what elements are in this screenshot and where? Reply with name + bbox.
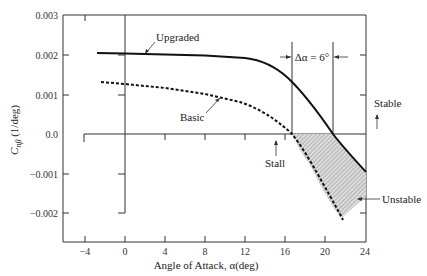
annotation-upgraded: Upgraded	[145, 31, 200, 54]
x-tick-label: 0	[123, 246, 128, 257]
y-tick-label: −0.002	[30, 208, 58, 219]
y-tick-label: −0.001	[30, 169, 58, 180]
x-tick-labels: −4 0 4 8 12 16 20 24	[80, 246, 370, 257]
annotation-unstable: Unstable	[357, 193, 421, 205]
y-tick-label: 0.003	[36, 10, 59, 21]
svg-text:Stall: Stall	[265, 157, 285, 169]
svg-text:Cnβ (1/deg): Cnβ (1/deg)	[8, 105, 23, 155]
svg-text:Unstable: Unstable	[382, 193, 421, 205]
y-tick-label: 0.0	[46, 129, 59, 140]
x-tick-label: 4	[163, 246, 168, 257]
x-axis-label: Angle of Attack, α(deg)	[154, 259, 259, 272]
annotation-stable: Stable	[374, 97, 402, 129]
unstable-shaded-region	[292, 134, 366, 218]
x-ticks	[85, 15, 325, 242]
svg-text:Stable: Stable	[374, 97, 402, 109]
x-tick-label: 12	[240, 246, 250, 257]
y-tick-labels: 0.003 0.002 0.001 0.0 −0.001 −0.002	[30, 10, 58, 219]
y-tick-label: 0.001	[36, 90, 59, 101]
x-tick-label: −4	[80, 246, 91, 257]
svg-text:Basic: Basic	[180, 111, 205, 123]
x-tick-label: 20	[320, 246, 330, 257]
plot-frame	[63, 15, 366, 242]
chart: 0.003 0.002 0.001 0.0 −0.001 −0.002 −4 0…	[0, 0, 427, 276]
y-tick-label: 0.002	[36, 50, 59, 61]
y-axis-label: Cnβ (1/deg)	[8, 105, 23, 155]
annotation-basic: Basic	[180, 98, 220, 123]
x-tick-label: 16	[280, 246, 290, 257]
x-tick-label: 8	[203, 246, 208, 257]
annotation-delta-alpha: Δα = 6°	[280, 51, 348, 63]
svg-text:Δα = 6°: Δα = 6°	[295, 51, 329, 63]
annotation-stall: Stall	[265, 140, 285, 169]
x-tick-label: 24	[360, 246, 370, 257]
svg-text:Upgraded: Upgraded	[156, 31, 200, 43]
